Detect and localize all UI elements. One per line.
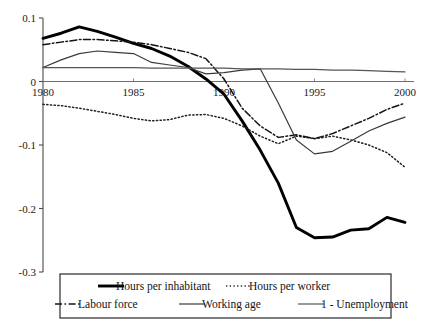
series-line: [43, 27, 405, 238]
y-tick-label: -0.2: [19, 203, 36, 215]
chart-legend: Hours per inhabitantHours per workerLabo…: [55, 274, 409, 318]
chart-container: 0.10-0.1-0.2-0.3 19801985199019952000 Ho…: [0, 0, 432, 328]
x-tick-label: 1985: [123, 86, 146, 98]
y-tick-label: -0.1: [19, 139, 36, 151]
legend-label: Working age: [202, 298, 261, 311]
y-axis-ticks: [39, 18, 43, 272]
y-tick-label: -0.3: [19, 266, 37, 278]
x-tick-label: 1995: [304, 86, 327, 98]
y-axis-tick-labels: 0.10-0.1-0.2-0.3: [19, 12, 37, 278]
legend-label: Hours per inhabitant: [116, 280, 211, 293]
legend-label: Labour force: [78, 298, 138, 310]
x-tick-label: 2000: [394, 86, 417, 98]
y-tick-label: 0.1: [22, 12, 36, 24]
series-line: [43, 51, 405, 154]
legend-label: Hours per worker: [249, 280, 330, 293]
x-tick-label: 1980: [32, 86, 55, 98]
legend-box: [60, 274, 391, 318]
series-line: [43, 68, 405, 72]
line-chart: 0.10-0.1-0.2-0.3 19801985199019952000 Ho…: [0, 0, 432, 328]
series-line: [43, 104, 405, 167]
data-series-group: [43, 27, 405, 238]
legend-label: 1 - Unemployment: [321, 298, 409, 311]
